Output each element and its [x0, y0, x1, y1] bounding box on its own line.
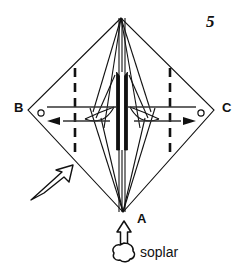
vertex-label-a: A: [137, 212, 146, 225]
central-slit-flaps: [117, 72, 128, 150]
left-circle-marker: [38, 110, 44, 116]
blow-arrow-icon: [117, 221, 131, 244]
vertex-label-c: C: [222, 101, 231, 114]
instruction-caption: soplar: [140, 245, 178, 259]
origami-step-figure: 5 B C A soplar: [0, 0, 242, 268]
inner-pocket-edges: [96, 75, 148, 118]
right-circle-marker: [198, 110, 204, 116]
origami-diagram-canvas: [0, 0, 242, 268]
vertex-label-b: B: [14, 101, 23, 114]
view-direction-arrow-icon: [31, 165, 73, 200]
puff-cloud-icon: [113, 243, 134, 262]
step-number: 5: [206, 13, 215, 30]
